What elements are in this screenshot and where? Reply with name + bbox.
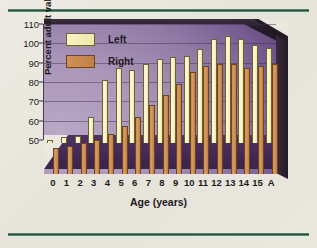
chart-3d-box: 5060708090100110 Left Right Percent adul… — [44, 19, 288, 174]
x-tick-label-8: 8 — [159, 177, 164, 188]
bar-right-6 — [135, 117, 141, 174]
bar-right-15 — [258, 66, 264, 174]
bar-left-1 — [61, 137, 67, 143]
legend-item-left: Left — [66, 33, 134, 46]
y-tick-label: 60 — [28, 115, 39, 126]
x-tick-label-1: 1 — [64, 177, 69, 188]
y-tick-label: 100 — [23, 38, 39, 49]
bar-right-4 — [108, 134, 114, 174]
bar-right-14 — [244, 68, 250, 174]
bar-right-10 — [190, 72, 196, 174]
bar-right-13 — [231, 64, 237, 174]
y-tick-label: 90 — [28, 57, 39, 68]
y-axis-title: Percent adult value — [42, 0, 53, 75]
bar-left-0 — [47, 140, 53, 143]
bar-right-9 — [176, 84, 182, 174]
x-axis-title: Age (years) — [0, 196, 317, 208]
legend-label-left: Left — [108, 34, 126, 45]
chart-legend: Left Right — [66, 33, 134, 77]
y-tick-label: 70 — [28, 96, 39, 107]
x-tick-label-10: 10 — [184, 177, 195, 188]
x-tick-label-4: 4 — [105, 177, 110, 188]
y-tick-label: 110 — [24, 19, 39, 30]
x-tick-label-7: 7 — [146, 177, 151, 188]
top-divider-rule — [8, 9, 309, 12]
y-tick-mark — [39, 82, 43, 83]
x-tick-label-15: 15 — [252, 177, 263, 188]
legend-label-right: Right — [108, 56, 134, 67]
bar-right-5 — [122, 126, 128, 174]
x-tick-label-A: A — [268, 177, 275, 188]
x-tick-label-11: 11 — [198, 177, 208, 188]
chart-page: 5060708090100110 Left Right Percent adul… — [0, 0, 317, 248]
legend-item-right: Right — [66, 55, 134, 68]
bar-right-11 — [203, 66, 209, 174]
x-tick-label-5: 5 — [118, 177, 123, 188]
x-tick-label-9: 9 — [173, 177, 178, 188]
y-tick-mark — [39, 101, 43, 102]
y-tick-mark — [39, 140, 43, 141]
bar-right-A — [272, 64, 278, 174]
legend-swatch-left — [66, 33, 95, 46]
bar-right-3 — [94, 140, 100, 174]
x-tick-label-6: 6 — [132, 177, 137, 188]
y-tick-mark — [39, 120, 43, 121]
x-tick-label-13: 13 — [225, 177, 236, 188]
bottom-divider-rule — [8, 233, 309, 236]
chart-right-bevel — [276, 29, 288, 179]
bar-right-1 — [67, 146, 73, 174]
y-tick-label: 80 — [28, 77, 39, 88]
x-tick-label-12: 12 — [211, 177, 222, 188]
x-tick-label-3: 3 — [91, 177, 96, 188]
bar-right-0 — [53, 148, 59, 174]
x-tick-label-2: 2 — [77, 177, 82, 188]
y-tick-label: 50 — [28, 135, 39, 146]
x-tick-label-14: 14 — [239, 177, 250, 188]
legend-swatch-right — [66, 55, 95, 68]
bar-right-7 — [149, 105, 155, 174]
x-tick-labels: 0123456789101112131415A — [44, 177, 276, 189]
x-tick-label-0: 0 — [50, 177, 55, 188]
bar-right-8 — [163, 95, 169, 174]
bar-right-12 — [217, 64, 223, 174]
bar-right-2 — [81, 143, 87, 174]
